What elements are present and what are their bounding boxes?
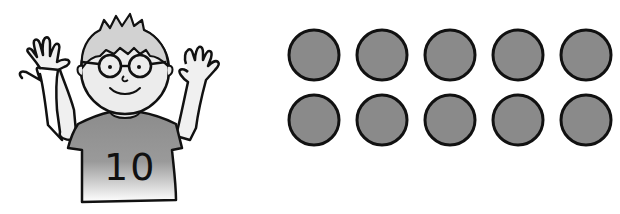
counters-grid: [289, 30, 611, 145]
counter-dot: [493, 95, 543, 145]
shirt-number: 10: [104, 145, 156, 189]
counter-dot: [357, 30, 407, 80]
left-arm: [20, 37, 76, 140]
counter-dot: [289, 30, 339, 80]
counter-dot: [289, 95, 339, 145]
right-eye: [137, 65, 141, 69]
right-arm: [176, 47, 219, 140]
left-eye: [108, 65, 112, 69]
head: [78, 14, 173, 114]
counter-dot: [425, 95, 475, 145]
boy-illustration: 10: [20, 14, 219, 202]
right-hand: [176, 47, 219, 140]
counting-scene: 10: [0, 0, 620, 214]
counter-dot: [561, 30, 611, 80]
counter-dot: [357, 95, 407, 145]
right-ear: [168, 66, 173, 76]
left-ear: [78, 66, 83, 76]
left-hand: [27, 37, 76, 140]
counter-dot: [493, 30, 543, 80]
counter-dot: [425, 30, 475, 80]
counter-dot: [561, 95, 611, 145]
